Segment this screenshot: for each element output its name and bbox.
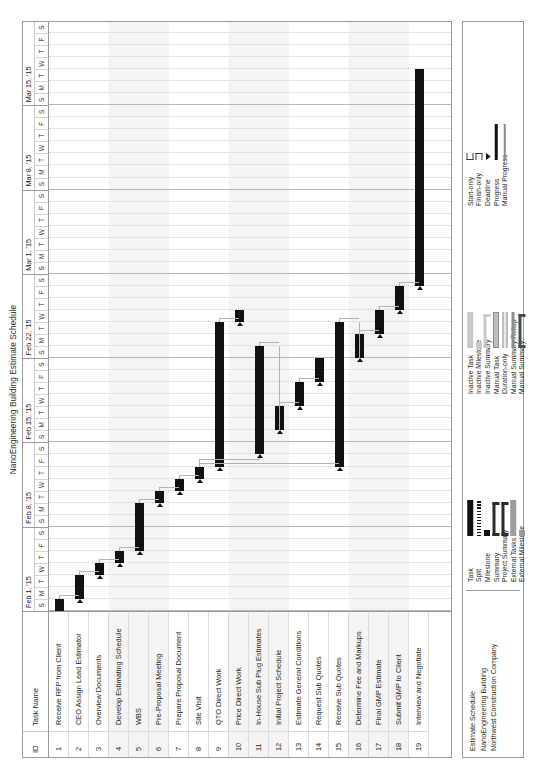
week-gridline xyxy=(49,441,451,442)
day-gridline xyxy=(49,562,451,563)
legend-item-label: Progress xyxy=(493,160,500,206)
timescale-day: T xyxy=(35,214,48,226)
dependency-arrow-icon xyxy=(377,334,383,338)
printed-page: NanoEngineering Building Estimate Schedu… xyxy=(0,0,540,779)
row-id: 7 xyxy=(169,731,188,757)
gantt-bar[interactable] xyxy=(335,322,344,466)
timescale-day: S xyxy=(35,346,48,358)
gantt-bar[interactable] xyxy=(175,479,184,491)
gantt-bar[interactable] xyxy=(195,467,204,479)
timescale-day: S xyxy=(35,359,48,370)
week-gridline xyxy=(49,273,451,274)
gantt-bar[interactable] xyxy=(235,310,244,322)
dependency-link xyxy=(339,318,359,319)
legend-item-label: Manual Summary xyxy=(518,348,525,394)
row-id: 6 xyxy=(149,731,168,757)
table-row[interactable]: 13Estimate General Conditions xyxy=(289,612,309,757)
task-table: ID Task Name 1Receive RFP from Client2CE… xyxy=(23,611,451,757)
timescale-day: S xyxy=(35,599,48,611)
row-id: 14 xyxy=(309,731,328,757)
day-gridline xyxy=(49,68,451,69)
legend-info-line: NanoEngineering Building xyxy=(479,601,490,751)
day-gridline xyxy=(49,478,451,479)
table-row[interactable]: 5WBS xyxy=(129,612,149,757)
timescale-day: T xyxy=(35,69,48,81)
table-row[interactable]: 18Submit GMP to Client xyxy=(389,612,409,757)
dependency-link xyxy=(79,572,80,575)
row-task-name: Overview Documents xyxy=(94,612,103,731)
table-row[interactable]: 11In-House Sub Plug Estimates xyxy=(249,612,269,757)
day-gridline xyxy=(49,56,451,57)
day-gridline xyxy=(49,333,451,334)
legend: Estimate ScheduleNanoEngineering Buildin… xyxy=(462,21,524,758)
gantt-bar[interactable] xyxy=(55,599,64,611)
row-task-name: WBS xyxy=(134,612,143,731)
legend-item-label: External Milestone xyxy=(518,536,525,582)
timescale-days: SMTWTFS xyxy=(35,22,48,105)
progress-line-icon xyxy=(492,120,501,160)
table-row[interactable]: 15Receive Sub Quotes xyxy=(329,612,349,757)
gantt-bar[interactable] xyxy=(215,322,224,466)
day-gridline xyxy=(49,32,451,33)
gantt-bar[interactable] xyxy=(255,346,264,454)
timescale-day: T xyxy=(35,238,48,250)
column-header-task-name: Task Name xyxy=(23,612,48,731)
timescale-week: Feb 15, '15SMTWTFS xyxy=(23,358,49,442)
dependency-link xyxy=(139,499,159,500)
timescale-week-label: Mar 15, '15 xyxy=(23,22,35,105)
timescale-days: SMTWTFS xyxy=(35,359,48,442)
day-gridline xyxy=(49,393,451,394)
timescale-day: T xyxy=(35,298,48,310)
legend-item: Finish-only xyxy=(475,26,484,206)
dependency-link xyxy=(79,571,99,572)
dependency-arrow-icon xyxy=(117,563,123,567)
task-bar-icon xyxy=(466,496,475,536)
table-row[interactable]: 10Price Direct Work xyxy=(229,612,249,757)
legend-column: Inactive TaskInactive MilestoneInactive … xyxy=(466,214,520,402)
table-row[interactable]: 9QTO Direct Work xyxy=(209,612,229,757)
legend-item: Manual Summary Rollup xyxy=(509,214,518,394)
legend-item: External Tasks xyxy=(509,402,518,582)
dependency-link xyxy=(119,547,139,548)
legend-item-label: External Tasks xyxy=(510,536,517,582)
gantt-bar[interactable] xyxy=(135,503,144,551)
table-row[interactable]: 12Initial Project Schedule xyxy=(269,612,289,757)
gantt-bar[interactable] xyxy=(415,69,424,286)
table-row[interactable]: 2CEO Assign Lead Estimator xyxy=(69,612,89,757)
dependency-link xyxy=(199,463,339,464)
table-row[interactable]: 4Develop Estimating Schedule xyxy=(109,612,129,757)
dependency-link xyxy=(339,319,340,322)
table-row[interactable]: 19Interview and Negotiate xyxy=(409,612,429,757)
table-row[interactable]: 1Receive RFP from Client xyxy=(49,612,69,757)
day-gridline xyxy=(49,514,451,515)
timescale-day: M xyxy=(35,250,48,262)
gantt-bar[interactable] xyxy=(155,491,164,503)
legend-item-label: Inactive Milestone xyxy=(475,348,482,394)
dependency-link xyxy=(199,464,200,467)
timescale-day: S xyxy=(35,106,48,117)
table-row[interactable]: 6Pre-Proposal Meeting xyxy=(149,612,169,757)
project-summary-bracket-icon xyxy=(500,496,509,536)
table-row[interactable]: 17Final GMP Estimate xyxy=(369,612,389,757)
timescale-day: T xyxy=(35,153,48,165)
timescale-day: M xyxy=(35,81,48,93)
legend-item-label: Inactive Summary xyxy=(484,348,491,394)
legend-column: Start-onlyFinish-onlyDeadlineProgressMan… xyxy=(466,26,520,214)
dependency-link xyxy=(359,331,360,334)
timescale-day: W xyxy=(35,141,48,153)
gantt-bar[interactable] xyxy=(95,563,104,575)
table-row[interactable]: 3Overview Documents xyxy=(89,612,109,757)
table-row[interactable]: 16Determine Fee and Markups xyxy=(349,612,369,757)
manual-summary-bracket-icon xyxy=(518,308,527,348)
gantt-bar[interactable] xyxy=(115,551,124,563)
table-row[interactable]: 8Site Visit xyxy=(189,612,209,757)
timescale-day: S xyxy=(35,22,48,33)
timescale-day: T xyxy=(35,575,48,587)
legend-project-info: Estimate ScheduleNanoEngineering Buildin… xyxy=(468,601,500,751)
table-row[interactable]: 14Request Sub Quotes xyxy=(309,612,329,757)
dependency-arrow-icon xyxy=(277,430,283,434)
legend-item-label: Deadline xyxy=(484,160,491,206)
row-band xyxy=(249,22,269,611)
timescale-day: W xyxy=(35,226,48,238)
table-row[interactable]: 7Prepare Proposal Document xyxy=(169,612,189,757)
